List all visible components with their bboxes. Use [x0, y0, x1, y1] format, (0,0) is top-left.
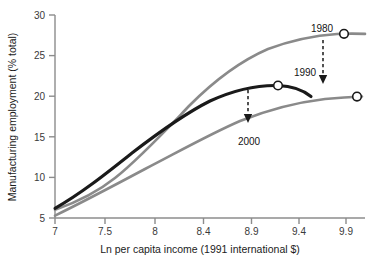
- series-line-1990: [55, 85, 311, 208]
- y-tick-label-15: 15: [34, 132, 46, 143]
- y-tick-label-30: 30: [34, 10, 46, 21]
- x-tick-label-9-9: 9.9: [339, 226, 353, 237]
- series-line-1980: [55, 34, 365, 210]
- annotation-label-1990: 1990: [294, 67, 317, 78]
- x-tick-label-9-4: 9.4: [292, 226, 306, 237]
- x-tick-labels-group: 7 7.5 8 8.4 8.9 9.4 9.9: [52, 226, 353, 237]
- annotation-arrow-1980-head: [319, 75, 327, 84]
- y-ticks-group: [49, 15, 55, 218]
- chart-container: 30 25 20 15 10 5 7 7.5 8 8.4 8.9 9.4 9.9: [0, 0, 377, 260]
- annotation-label-2000: 2000: [238, 136, 261, 147]
- x-tick-label-8-4: 8.4: [197, 226, 211, 237]
- x-tick-label-7: 7: [52, 226, 58, 237]
- x-axis-title: Ln per capita income (1991 international…: [100, 243, 300, 255]
- manufacturing-employment-chart: 30 25 20 15 10 5 7 7.5 8 8.4 8.9 9.4 9.9: [0, 0, 377, 260]
- y-tick-label-20: 20: [34, 91, 46, 102]
- x-tick-label-7-5: 7.5: [98, 226, 112, 237]
- series-group: [55, 34, 365, 216]
- series-line-2000: [55, 97, 362, 216]
- y-tick-labels-group: 30 25 20 15 10 5: [34, 10, 46, 224]
- x-tick-label-8: 8: [152, 226, 158, 237]
- x-ticks-group: [55, 218, 346, 224]
- annotation-label-1980: 1980: [311, 23, 334, 34]
- y-tick-label-5: 5: [39, 213, 45, 224]
- y-axis-title: Manufacturing employment (% total): [6, 33, 18, 202]
- marker-2000-endpoint: [353, 92, 362, 101]
- endpoint-markers-group: [274, 30, 362, 101]
- annotation-arrows-group: [244, 40, 327, 123]
- x-tick-label-8-9: 8.9: [245, 226, 259, 237]
- marker-1980-endpoint: [340, 30, 349, 39]
- y-tick-label-25: 25: [34, 50, 46, 61]
- y-tick-label-10: 10: [34, 172, 46, 183]
- marker-1990-endpoint: [274, 81, 283, 90]
